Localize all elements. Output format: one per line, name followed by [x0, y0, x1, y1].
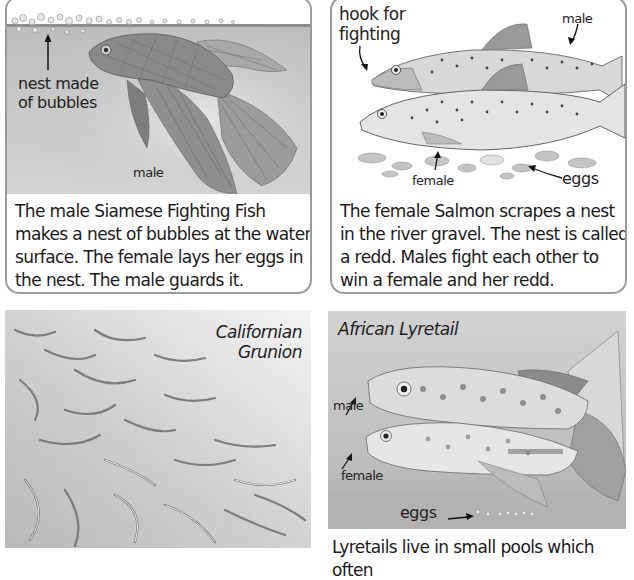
caption-line: the nest. The male guards it.: [15, 269, 312, 292]
eggs-label: eggs: [400, 504, 437, 522]
male-label: male: [562, 10, 592, 28]
caption-line: Lyretails live in small pools which ofte…: [332, 536, 632, 580]
fighting-fish-caption: The male Siamese Fighting Fish makes a n…: [15, 200, 312, 292]
salmon-caption: The female Salmon scrapes a nest in the …: [340, 200, 627, 292]
nest-label-line: of bubbles: [18, 93, 99, 112]
female-label: female: [341, 467, 383, 485]
male-label: male: [133, 164, 163, 182]
grunion-title-line: Californian: [206, 322, 302, 342]
hook-label-line: hook for: [339, 4, 405, 24]
caption-line: makes a nest of bubbles at the water: [15, 223, 312, 246]
nest-label-line: nest made: [18, 74, 99, 93]
lyretail-illustration: [328, 311, 626, 529]
caption-line: surface. The female lays her eggs in: [15, 246, 312, 269]
fighting-fish-panel: nest made of bubbles male The male Siame…: [5, 0, 312, 294]
caption-line: a redd. Males fight each other to: [340, 246, 627, 269]
lyretail-title: African Lyretail: [338, 320, 458, 338]
eggs-label: eggs: [562, 170, 599, 188]
caption-line: in the river gravel. The nest is called: [340, 223, 627, 246]
caption-line: The male Siamese Fighting Fish: [15, 200, 312, 223]
grunion-title: Californian Grunion: [206, 322, 302, 362]
male-label: male: [333, 397, 363, 415]
nest-label: nest made of bubbles: [18, 74, 99, 112]
lyretail-image: [328, 311, 626, 529]
lyretail-caption: Lyretails live in small pools which ofte…: [332, 536, 632, 580]
salmon-panel: hook for fighting male female eggs The f…: [330, 0, 627, 294]
caption-line: win a female and her redd.: [340, 269, 627, 292]
caption-line: The female Salmon scrapes a nest: [340, 200, 627, 223]
female-label: female: [412, 172, 454, 190]
grunion-title-line: Grunion: [206, 342, 302, 362]
hook-label: hook for fighting: [339, 4, 405, 44]
hook-label-line: fighting: [339, 24, 405, 44]
